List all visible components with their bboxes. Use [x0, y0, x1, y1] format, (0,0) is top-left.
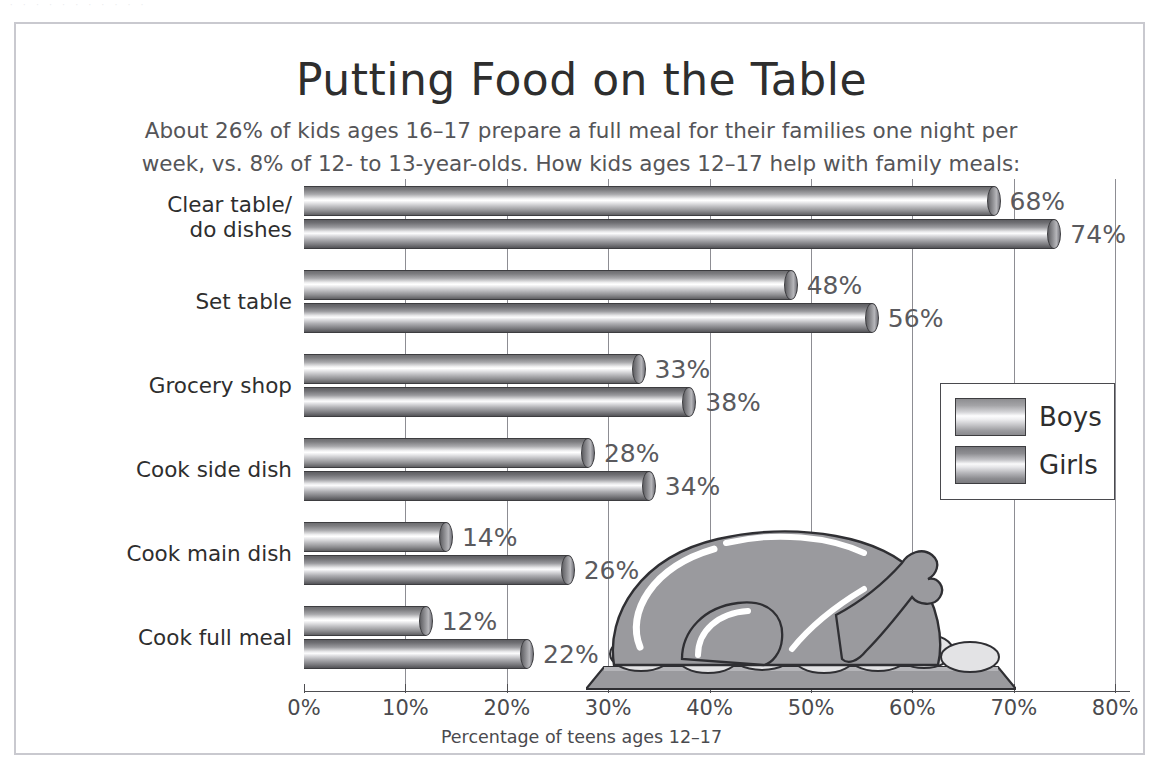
value-label-girls-2: 38%	[705, 388, 761, 417]
gridline-20	[507, 179, 508, 691]
x-tick-label-10: 10%	[365, 696, 445, 720]
bar-end-cap	[581, 438, 595, 468]
bar-girls-1	[304, 303, 872, 333]
bar-girls-0	[304, 219, 1054, 249]
x-axis-title: Percentage of teens ages 12–17	[16, 727, 1147, 747]
legend-swatch-boys	[955, 398, 1026, 436]
x-tick-20	[507, 684, 508, 693]
value-label-girls-1: 56%	[888, 304, 944, 333]
roast-turkey-illustration	[586, 519, 1016, 698]
category-label-line: Cook full meal	[16, 625, 292, 650]
scan-artifact-text: · · · · · · · · · · ·	[10, 1, 430, 11]
value-label-girls-4: 26%	[584, 556, 640, 585]
category-label-0: Clear table/do dishes	[16, 192, 292, 242]
gridline-80	[1115, 179, 1116, 691]
bar-end-cap	[439, 522, 453, 552]
bar-end-cap	[865, 303, 879, 333]
category-label-line: Set table	[16, 289, 292, 314]
bar-end-cap	[419, 606, 433, 636]
bar-boys-0	[304, 186, 994, 216]
legend-swatch-girls	[955, 446, 1026, 484]
bar-end-cap	[642, 471, 656, 501]
value-label-boys-2: 33%	[655, 355, 711, 384]
value-label-boys-4: 14%	[462, 523, 518, 552]
value-label-girls-0: 74%	[1070, 220, 1126, 249]
chart-screenshot: · · · · · · · · · · · Putting Food on th…	[0, 0, 1158, 768]
category-label-line: Cook side dish	[16, 457, 292, 482]
chart-frame: Putting Food on the Table About 26% of k…	[14, 22, 1145, 755]
x-tick-label-30: 30%	[568, 696, 648, 720]
bar-end-cap	[632, 354, 646, 384]
bar-boys-4	[304, 522, 446, 552]
bar-end-cap	[682, 387, 696, 417]
category-label-line: do dishes	[16, 217, 292, 242]
value-label-boys-1: 48%	[807, 271, 863, 300]
x-tick-label-40: 40%	[670, 696, 750, 720]
value-label-boys-5: 12%	[442, 607, 498, 636]
category-label-line: Grocery shop	[16, 373, 292, 398]
x-tick-80	[1115, 684, 1116, 693]
chart-legend: Boys Girls	[940, 383, 1115, 500]
legend-label-boys: Boys	[1039, 399, 1102, 435]
bar-end-cap	[1047, 219, 1061, 249]
bar-end-cap	[520, 639, 534, 669]
bar-end-cap	[784, 270, 798, 300]
bar-boys-2	[304, 354, 639, 384]
category-label-4: Cook main dish	[16, 541, 292, 566]
bar-girls-2	[304, 387, 689, 417]
bar-girls-5	[304, 639, 527, 669]
value-label-boys-3: 28%	[604, 439, 660, 468]
x-tick-label-0: 0%	[264, 696, 344, 720]
bar-end-cap	[987, 186, 1001, 216]
value-label-girls-5: 22%	[543, 640, 599, 669]
category-label-line: Clear table/	[16, 192, 292, 217]
legend-label-girls: Girls	[1039, 447, 1098, 483]
x-tick-label-70: 70%	[974, 696, 1054, 720]
bar-girls-3	[304, 471, 649, 501]
category-label-2: Grocery shop	[16, 373, 292, 398]
x-tick-label-80: 80%	[1075, 696, 1155, 720]
category-label-line: Cook main dish	[16, 541, 292, 566]
bar-girls-4	[304, 555, 568, 585]
value-label-boys-0: 68%	[1010, 187, 1066, 216]
plot-area: 0%10%20%30%40%50%60%70%80%	[16, 24, 1147, 757]
category-label-1: Set table	[16, 289, 292, 314]
x-tick-label-50: 50%	[771, 696, 851, 720]
x-tick-label-60: 60%	[872, 696, 952, 720]
category-label-5: Cook full meal	[16, 625, 292, 650]
bar-boys-1	[304, 270, 791, 300]
value-label-girls-3: 34%	[665, 472, 721, 501]
category-label-3: Cook side dish	[16, 457, 292, 482]
x-tick-0	[304, 684, 305, 693]
bar-boys-3	[304, 438, 588, 468]
bar-boys-5	[304, 606, 426, 636]
bar-end-cap	[561, 555, 575, 585]
x-tick-label-20: 20%	[467, 696, 547, 720]
x-tick-10	[405, 684, 406, 693]
